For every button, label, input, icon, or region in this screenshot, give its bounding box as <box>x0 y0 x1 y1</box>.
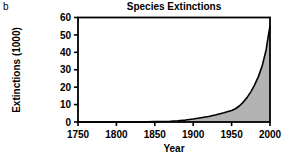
x-axis-tick-label: 1800 <box>105 129 128 140</box>
figure-panel: b Species Extinctions Extinctions (1000)… <box>0 0 290 161</box>
y-axis-tick-label: 20 <box>60 82 72 93</box>
x-axis-tick-label: 1900 <box>182 129 205 140</box>
y-axis-tick-label: 60 <box>60 12 72 23</box>
area-fill <box>78 26 270 122</box>
x-axis-tick-label: 1750 <box>67 129 90 140</box>
x-axis-tick-label: 1850 <box>144 129 167 140</box>
y-axis-tick-label: 50 <box>60 30 72 41</box>
y-axis-tick-label: 30 <box>60 64 72 75</box>
x-axis-tick-label: 1950 <box>220 129 243 140</box>
chart-plot-area: 0102030405060175018001850190019502000 <box>0 0 290 161</box>
y-axis-tick-label: 10 <box>60 99 72 110</box>
x-axis-tick-label: 2000 <box>259 129 282 140</box>
y-axis-tick-label: 40 <box>60 47 72 58</box>
y-axis-tick-label: 0 <box>65 117 71 128</box>
